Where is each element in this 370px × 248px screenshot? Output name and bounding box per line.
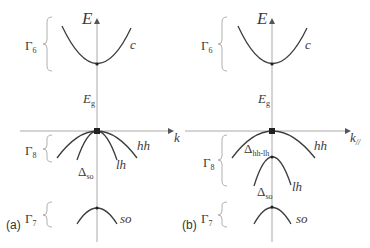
heavy-hole-label-b: hh: [314, 139, 327, 152]
energy-axis-label-b: E: [257, 10, 267, 27]
gamma8-brace-a: [43, 135, 52, 162]
conduction-band-label-a: c: [130, 38, 136, 51]
split-off-label-b: so: [296, 212, 308, 225]
delta-so-label-b: Δso: [257, 185, 273, 201]
gamma7-label-a: Γ7: [25, 212, 37, 228]
gamma6-label-b: Γ6: [201, 39, 213, 55]
bandgap-label-b: Eg: [258, 92, 270, 108]
light-hole-label-a: lh: [116, 158, 126, 171]
gamma6-brace-a: [43, 17, 52, 71]
panel-tag-b: (b): [182, 218, 197, 232]
gamma7-brace-a: [43, 202, 52, 227]
gamma8-brace-b: [218, 135, 227, 186]
gamma7-brace-b: [218, 202, 227, 227]
panel-a: [20, 17, 171, 242]
gamma6-brace-b: [218, 17, 227, 71]
light-hole-label-b: lh: [292, 180, 302, 193]
delta-so-label-a: Δso: [78, 165, 94, 181]
gamma7-label-b: Γ7: [201, 212, 213, 228]
bandgap-label-a: Eg: [83, 92, 95, 108]
energy-axis-label-a: E: [82, 10, 92, 27]
heavy-hole-label-a: hh: [137, 139, 150, 152]
conduction-band-label-b: c: [305, 38, 311, 51]
split-off-label-a: so: [120, 212, 132, 225]
gamma6-label-a: Γ6: [25, 39, 37, 55]
gamma8-label-a: Γ8: [25, 144, 37, 160]
k-parallel-axis-label-b: k//: [350, 131, 360, 147]
panel-tag-a: (a): [6, 218, 21, 232]
band-diagram-canvas: [0, 0, 370, 248]
delta-hh-lh-label-b: Δhh-lh: [244, 142, 269, 158]
k-axis-label-a: k: [174, 131, 180, 144]
gamma8-label-b: Γ8: [203, 156, 215, 172]
